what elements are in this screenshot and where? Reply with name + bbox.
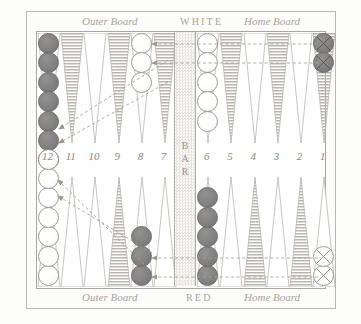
point-triangle [107,176,131,287]
top-point-12-checker[interactable] [38,72,59,93]
top-point-6-checker[interactable] [197,111,218,132]
x-mark-icon [315,267,332,284]
top-point-12-checker[interactable] [38,130,59,151]
top-point-4[interactable] [243,33,267,144]
x-mark-icon [315,248,332,265]
point-triangle [83,33,107,144]
bottom-point-1-checker[interactable] [313,265,334,286]
x-mark-icon [315,54,332,71]
bottom-outer-board-label: Outer Board [82,291,138,303]
top-point-5[interactable] [219,33,243,144]
point-triangle [60,176,84,287]
top-point-12-checker[interactable] [38,111,59,132]
bottom-point-8-checker[interactable] [131,265,152,286]
bottom-point-12-checker[interactable] [38,246,59,267]
point-triangle [219,33,243,144]
bottom-point-8-checker[interactable] [131,226,152,247]
point-number-7: 7 [152,150,175,162]
point-triangle [219,176,243,287]
top-point-8-checker[interactable] [131,33,152,54]
point-number-6: 6 [195,150,218,162]
bottom-point-9[interactable] [107,176,131,287]
point-triangle [83,176,107,287]
point-number-strip: 121110987654321 [36,150,324,168]
point-triangle [60,33,84,144]
top-point-12-checker[interactable] [38,33,59,54]
bottom-point-3[interactable] [266,176,290,287]
point-number-4: 4 [242,150,265,162]
top-point-3[interactable] [266,33,290,144]
top-point-2[interactable] [289,33,313,144]
point-number-1: 1 [311,150,334,162]
top-point-10[interactable] [83,33,107,144]
point-number-10: 10 [82,150,105,162]
point-triangle [107,33,131,144]
bottom-point-11[interactable] [60,176,84,287]
bottom-point-12-checker[interactable] [38,207,59,228]
top-point-1-checker[interactable] [313,52,334,73]
point-number-2: 2 [288,150,311,162]
bottom-point-2[interactable] [289,176,313,287]
point-number-5: 5 [218,150,241,162]
top-point-1-checker[interactable] [313,33,334,54]
point-triangle [266,33,290,144]
bottom-home-board-label: Home Board [244,291,300,303]
top-outer-board-label: Outer Board [82,15,138,27]
bottom-point-4[interactable] [243,176,267,287]
bottom-point-6-checker[interactable] [197,207,218,228]
bottom-point-12-checker[interactable] [38,265,59,286]
point-triangle [243,33,267,144]
bottom-point-8-checker[interactable] [131,246,152,267]
bottom-point-1-checker[interactable] [313,246,334,267]
red-side-label: RED [186,292,213,303]
top-label-row: Outer Board WHITE Home Board [26,11,334,31]
point-triangle [266,176,290,287]
bottom-point-5[interactable] [219,176,243,287]
point-number-8: 8 [129,150,152,162]
x-mark-icon [315,35,332,52]
bottom-label-row: Outer Board RED Home Board [26,287,334,307]
bottom-point-12-checker[interactable] [38,168,59,189]
backgammon-diagram: Outer Board WHITE Home Board Outer Board… [0,0,361,324]
point-triangle [289,176,313,287]
bottom-point-6-checker[interactable] [197,246,218,267]
top-home-board-label: Home Board [244,15,300,27]
top-point-6-checker[interactable] [197,72,218,93]
point-triangle [289,33,313,144]
point-number-9: 9 [106,150,129,162]
point-triangle [243,176,267,287]
white-side-label: WHITE [180,16,223,27]
point-number-3: 3 [265,150,288,162]
top-point-9[interactable] [107,33,131,144]
point-number-11: 11 [59,150,82,162]
top-point-11[interactable] [60,33,84,144]
point-number-12: 12 [36,150,59,162]
top-point-8-checker[interactable] [131,72,152,93]
bottom-point-10[interactable] [83,176,107,287]
